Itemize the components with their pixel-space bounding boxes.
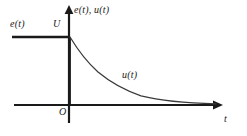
plot-canvas	[0, 0, 247, 136]
label-step-amplitude: U	[53, 19, 60, 29]
label-x-axis: t	[224, 114, 227, 124]
x-axis	[14, 101, 223, 110]
series-u-of-t	[70, 37, 216, 104]
figure-step-response: e(t) U e(t), u(t) u(t) O t	[0, 0, 247, 136]
label-input-signal: e(t)	[10, 19, 25, 29]
label-y-axis: e(t), u(t)	[74, 5, 109, 15]
series-e-of-t	[12, 37, 70, 105]
x-axis-arrowhead	[213, 101, 223, 110]
y-axis-arrowhead	[65, 5, 74, 14]
decay-curve	[70, 37, 216, 104]
label-origin: O	[59, 107, 66, 117]
label-output-signal: u(t)	[122, 70, 137, 80]
